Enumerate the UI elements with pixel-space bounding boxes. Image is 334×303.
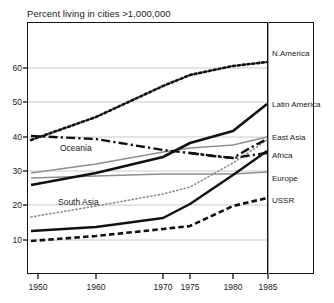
series-label-africa: Africa [272, 151, 292, 160]
series-label-latin-america: Latin America [272, 100, 320, 109]
series-label-n-america: N.America [272, 49, 309, 58]
y-tick-label-50: 50 [2, 97, 22, 107]
x-tick-label-1980: 1980 [216, 282, 250, 292]
x-tick-label-1985: 1985 [251, 282, 285, 292]
x-tick-label-1960: 1960 [79, 282, 113, 292]
x-tick-label-1950: 1950 [21, 282, 55, 292]
y-tick-label-30: 30 [2, 166, 22, 176]
y-tick-label-20: 20 [2, 200, 22, 210]
y-tick-label-40: 40 [2, 132, 22, 142]
series-label-ussr: USSR [272, 196, 294, 205]
y-tick-label-60: 60 [2, 63, 22, 73]
chart-figure: Percent living in cities >1,000,000 [0, 0, 334, 303]
x-tick-marks [38, 274, 268, 279]
inline-label-oceania: Oceania [60, 143, 92, 153]
series-label-europe: Europe [272, 174, 298, 183]
series-line-n-america [31, 62, 267, 140]
x-tick-label-1975: 1975 [173, 282, 207, 292]
inline-label-south-asia: South Asia [58, 197, 99, 207]
y-tick-marks [23, 68, 28, 240]
y-tick-label-10: 10 [2, 235, 22, 245]
series-label-east-asia: East Asia [272, 133, 305, 142]
